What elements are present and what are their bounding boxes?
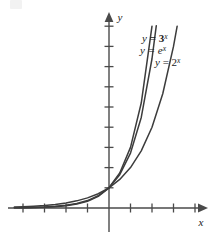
coordinate-plot: x y y = 3xy = exy = 2x xyxy=(0,0,220,240)
y-axis: y xyxy=(105,11,123,232)
curve-label-2: y = ex xyxy=(139,44,167,57)
y-axis-label: y xyxy=(117,11,123,23)
curve-2 xyxy=(14,26,156,208)
x-axis-arrowhead xyxy=(198,204,208,213)
y-axis-arrowhead xyxy=(105,12,114,22)
curve-label-1: y = 3x xyxy=(141,32,168,45)
exponential-functions-figure: x y y = 3xy = exy = 2x xyxy=(0,0,220,240)
curve-1 xyxy=(14,26,152,208)
x-axis-label: x xyxy=(198,216,204,228)
curve-label-3: y = 2x xyxy=(154,56,181,69)
